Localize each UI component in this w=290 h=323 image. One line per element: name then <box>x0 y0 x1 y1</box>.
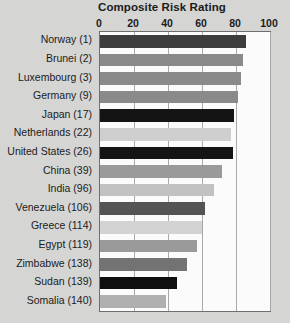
bar-row <box>100 32 270 51</box>
bar-row <box>100 237 270 256</box>
category-label: Egypt (119) <box>0 238 95 250</box>
bar <box>100 184 214 197</box>
x-tick-label-20: 20 <box>127 17 139 29</box>
category-label: Netherlands (22) <box>0 126 95 138</box>
bar-row <box>100 125 270 144</box>
category-label: United States (26) <box>0 145 95 157</box>
bar <box>100 128 231 141</box>
x-tick-label-40: 40 <box>161 17 173 29</box>
bar-row <box>100 51 270 70</box>
category-label: Venezuela (106) <box>0 201 95 213</box>
category-label: Germany (9) <box>0 89 95 101</box>
x-tick-label-60: 60 <box>195 17 207 29</box>
bar <box>100 221 202 234</box>
composite-risk-rating-chart: Composite Risk Rating 020406080100 Norwa… <box>0 0 290 323</box>
x-axis-tick-labels: 020406080100 <box>0 17 290 30</box>
bar <box>100 202 205 215</box>
category-label: Greece (114) <box>0 219 95 231</box>
bar-row <box>100 274 270 293</box>
bar-row <box>100 292 270 311</box>
bar-row <box>100 255 270 274</box>
category-label: Sudan (139) <box>0 275 95 287</box>
bar <box>100 109 234 122</box>
x-tick-label-100: 100 <box>260 17 278 29</box>
bar <box>100 295 166 308</box>
bar <box>100 240 197 253</box>
bar-row <box>100 69 270 88</box>
bar <box>100 35 246 48</box>
category-label: Zimbabwe (138) <box>0 257 95 269</box>
bar-row <box>100 88 270 107</box>
bar <box>100 72 241 85</box>
bar <box>100 277 177 290</box>
y-axis-category-labels: Norway (1)Brunei (2)Luxembourg (3)German… <box>0 31 95 310</box>
bar <box>100 54 243 67</box>
bar <box>100 91 238 104</box>
category-label: India (96) <box>0 182 95 194</box>
bar-row <box>100 181 270 200</box>
clipped-footer <box>0 312 290 323</box>
category-label: Brunei (2) <box>0 52 95 64</box>
bar <box>100 258 187 271</box>
bar-row <box>100 218 270 237</box>
bars-layer <box>100 32 270 311</box>
bar-row <box>100 199 270 218</box>
category-label: Norway (1) <box>0 33 95 45</box>
bar <box>100 165 222 178</box>
bar-row <box>100 144 270 163</box>
x-tick-label-0: 0 <box>96 17 102 29</box>
chart-title: Composite Risk Rating <box>0 1 290 13</box>
bar-row <box>100 106 270 125</box>
category-label: Japan (17) <box>0 108 95 120</box>
category-label: Somalia (140) <box>0 294 95 306</box>
bar <box>100 147 233 160</box>
gridline-100 <box>270 32 271 311</box>
category-label: China (39) <box>0 164 95 176</box>
category-label: Luxembourg (3) <box>0 71 95 83</box>
plot-area <box>99 31 271 312</box>
x-tick-label-80: 80 <box>229 17 241 29</box>
bar-row <box>100 162 270 181</box>
